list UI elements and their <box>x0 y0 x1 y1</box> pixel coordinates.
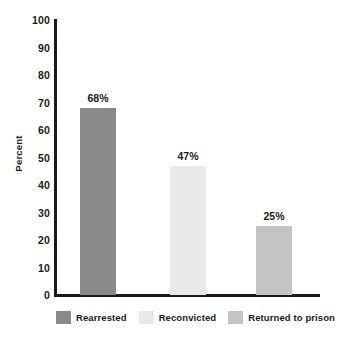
y-axis-tick-label: 60 <box>4 125 50 136</box>
plot-area: 68%47%25% <box>56 20 320 295</box>
legend-label: Returned to prison <box>248 312 335 323</box>
y-axis-tick-label: 20 <box>4 235 50 246</box>
bar-value-label: 68% <box>71 93 125 104</box>
y-axis-tick-label: 100 <box>4 15 50 26</box>
y-axis-tick-label: 30 <box>4 208 50 219</box>
legend-item-3[interactable]: Returned to prison <box>228 311 335 324</box>
legend-label: Rearrested <box>76 312 127 323</box>
legend-item-1[interactable]: Rearrested <box>56 311 127 324</box>
y-axis-tick-label: 10 <box>4 263 50 274</box>
bar-value-label: 25% <box>247 211 301 222</box>
y-axis-tick-labels: 1009080706050403020100 <box>0 0 50 337</box>
bar-3 <box>256 226 292 295</box>
y-axis-tick-label: 80 <box>4 70 50 81</box>
chart-figure: Percent 1009080706050403020100 68%47%25%… <box>0 0 341 337</box>
legend-swatch-icon <box>56 311 71 324</box>
chart-legend: RearrestedReconvictedReturned to prison <box>56 307 324 327</box>
bar-1 <box>80 108 116 295</box>
legend-item-2[interactable]: Reconvicted <box>139 311 217 324</box>
bar-value-label: 47% <box>161 151 215 162</box>
bar-2 <box>170 166 206 295</box>
y-axis-tick-label: 0 <box>4 290 50 301</box>
y-axis-tick-label: 70 <box>4 98 50 109</box>
y-axis-tick-label: 50 <box>4 153 50 164</box>
legend-swatch-icon <box>228 311 243 324</box>
legend-label: Reconvicted <box>159 312 217 323</box>
y-axis-tick-label: 90 <box>4 43 50 54</box>
y-axis-tick-label: 40 <box>4 180 50 191</box>
legend-swatch-icon <box>139 311 154 324</box>
